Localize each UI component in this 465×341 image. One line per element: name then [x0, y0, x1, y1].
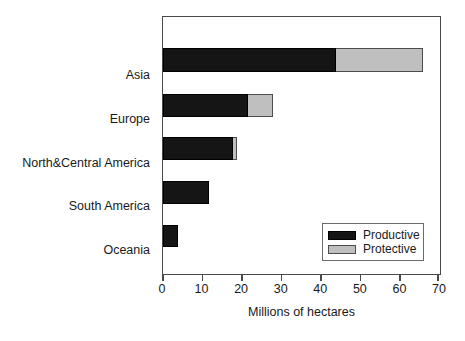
legend-entry-protective: Protective: [328, 242, 418, 256]
x-tick-label-0: 0: [159, 283, 166, 296]
bar-row-north-central-america: [163, 137, 237, 160]
x-tick-label-30: 30: [274, 283, 288, 296]
y-axis-category-labels: Asia Europe North&Central America South …: [0, 16, 156, 275]
x-tick-mark-60: [399, 275, 401, 281]
legend-swatch-protective-icon: [328, 245, 356, 254]
y-axis-label-europe: Europe: [0, 113, 156, 126]
x-tick-mark-30: [281, 275, 283, 281]
bar-segment-south-america-productive: [163, 181, 209, 204]
x-tick-mark-50: [360, 275, 362, 281]
bar-segment-asia-productive: [163, 48, 336, 72]
bar-row-europe: [163, 94, 273, 117]
bar-row-asia: [163, 48, 423, 72]
chart-legend: Productive Protective: [322, 223, 424, 261]
x-axis-title: Millions of hectares: [162, 306, 441, 319]
legend-entry-productive: Productive: [328, 228, 418, 242]
bar-segment-north-central-america-productive: [163, 137, 233, 160]
y-axis-label-north-central-america: North&Central America: [0, 157, 156, 170]
bar-segment-north-central-america-protective: [233, 137, 237, 160]
x-tick-label-50: 50: [353, 283, 367, 296]
x-tick-mark-70: [437, 275, 439, 281]
bar-row-south-america: [163, 181, 209, 204]
bar-segment-europe-productive: [163, 94, 248, 117]
bar-segment-oceania-productive: [163, 225, 178, 247]
x-tick-label-60: 60: [392, 283, 406, 296]
x-axis-ticks: 0 10 20 30 40 50 60 70: [162, 275, 441, 301]
x-tick-mark-40: [320, 275, 322, 281]
y-axis-label-asia: Asia: [0, 69, 156, 82]
bar-segment-asia-protective: [336, 48, 423, 72]
x-tick-label-40: 40: [313, 283, 327, 296]
x-tick-label-70: 70: [432, 283, 446, 296]
y-axis-label-south-america: South America: [0, 200, 156, 213]
x-tick-mark-20: [241, 275, 243, 281]
bar-segment-europe-protective: [248, 94, 273, 117]
legend-label-productive: Productive: [363, 229, 420, 241]
x-tick-mark-10: [202, 275, 204, 281]
x-tick-mark-0: [162, 275, 164, 281]
chart-figure: Asia Europe North&Central America South …: [0, 0, 465, 341]
legend-label-protective: Protective: [363, 243, 416, 255]
y-axis-label-oceania: Oceania: [0, 244, 156, 257]
legend-swatch-productive-icon: [328, 231, 356, 240]
bar-row-oceania: [163, 225, 178, 247]
x-tick-label-10: 10: [195, 283, 209, 296]
x-tick-label-20: 20: [234, 283, 248, 296]
